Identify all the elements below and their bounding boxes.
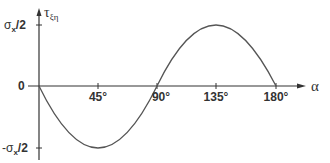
x-axis-label: α	[311, 78, 319, 94]
y-label-top: σx/2	[4, 18, 26, 34]
x-label-90: 90°	[152, 90, 170, 104]
y-axis-label: τξη	[44, 5, 59, 22]
y-label-zero: 0	[18, 79, 25, 93]
x-label-180: 180°	[264, 90, 289, 104]
x-label-135: 135°	[204, 90, 229, 104]
y-axis-arrow-icon	[37, 8, 42, 16]
x-label-45: 45°	[89, 90, 107, 104]
y-label-bottom: -σx/2	[2, 141, 28, 157]
x-axis-arrow-icon	[297, 84, 306, 89]
chart: τξη σx/2 0 -σx/2 45° 90° 135° 180° α	[0, 0, 330, 163]
